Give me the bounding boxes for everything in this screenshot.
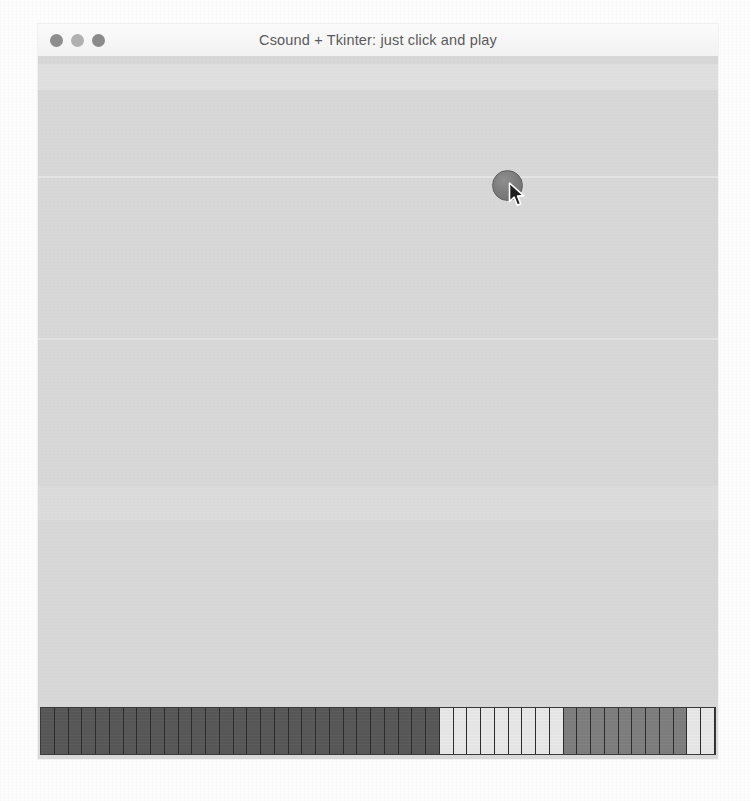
window-title: Csound + Tkinter: just click and play xyxy=(259,32,497,48)
key-cell[interactable] xyxy=(289,708,303,754)
key-cell[interactable] xyxy=(412,708,426,754)
key-cell[interactable] xyxy=(179,708,193,754)
key-cell[interactable] xyxy=(605,708,619,754)
key-cell[interactable] xyxy=(550,708,564,754)
scan-band xyxy=(38,64,718,90)
key-cell[interactable] xyxy=(55,708,69,754)
key-cell[interactable] xyxy=(371,708,385,754)
key-cell[interactable] xyxy=(701,708,715,754)
note-blob[interactable] xyxy=(492,170,523,201)
keyboard-strip[interactable] xyxy=(40,707,716,755)
scan-band xyxy=(38,176,718,178)
minimize-button[interactable] xyxy=(71,34,84,47)
key-cell[interactable] xyxy=(564,708,578,754)
key-cell[interactable] xyxy=(165,708,179,754)
key-cell[interactable] xyxy=(426,708,440,754)
scan-band xyxy=(38,338,718,340)
title-bar: Csound + Tkinter: just click and play xyxy=(38,24,718,57)
key-cell[interactable] xyxy=(302,708,316,754)
key-cell[interactable] xyxy=(316,708,330,754)
key-cell[interactable] xyxy=(440,708,454,754)
key-cell[interactable] xyxy=(69,708,83,754)
key-cell[interactable] xyxy=(41,708,55,754)
key-cell[interactable] xyxy=(82,708,96,754)
window-controls xyxy=(50,24,105,56)
key-cell[interactable] xyxy=(192,708,206,754)
play-canvas[interactable] xyxy=(38,56,718,707)
zoom-button[interactable] xyxy=(92,34,105,47)
key-cell[interactable] xyxy=(137,708,151,754)
key-cell[interactable] xyxy=(646,708,660,754)
application-window: Csound + Tkinter: just click and play xyxy=(38,24,718,759)
key-cell[interactable] xyxy=(591,708,605,754)
key-cell[interactable] xyxy=(247,708,261,754)
key-cell[interactable] xyxy=(96,708,110,754)
key-cell[interactable] xyxy=(110,708,124,754)
key-cell[interactable] xyxy=(509,708,523,754)
key-cell[interactable] xyxy=(261,708,275,754)
close-button[interactable] xyxy=(50,34,63,47)
key-cell[interactable] xyxy=(234,708,248,754)
key-cell[interactable] xyxy=(522,708,536,754)
key-cell[interactable] xyxy=(385,708,399,754)
key-cell[interactable] xyxy=(344,708,358,754)
key-cell[interactable] xyxy=(454,708,468,754)
key-cell[interactable] xyxy=(674,708,688,754)
key-cell[interactable] xyxy=(330,708,344,754)
key-cell[interactable] xyxy=(151,708,165,754)
scanned-page-background: Csound + Tkinter: just click and play xyxy=(0,0,751,801)
key-cell[interactable] xyxy=(687,708,701,754)
key-cell[interactable] xyxy=(220,708,234,754)
key-cell[interactable] xyxy=(632,708,646,754)
key-cell[interactable] xyxy=(206,708,220,754)
canvas-grain-texture xyxy=(38,56,718,707)
scan-band xyxy=(38,486,718,520)
key-cell[interactable] xyxy=(357,708,371,754)
key-cell[interactable] xyxy=(467,708,481,754)
key-cell[interactable] xyxy=(536,708,550,754)
key-cell[interactable] xyxy=(660,708,674,754)
key-cell[interactable] xyxy=(275,708,289,754)
key-cell[interactable] xyxy=(399,708,413,754)
key-cell[interactable] xyxy=(124,708,138,754)
key-cell[interactable] xyxy=(619,708,633,754)
key-cell[interactable] xyxy=(577,708,591,754)
key-cell[interactable] xyxy=(481,708,495,754)
key-cell[interactable] xyxy=(495,708,509,754)
